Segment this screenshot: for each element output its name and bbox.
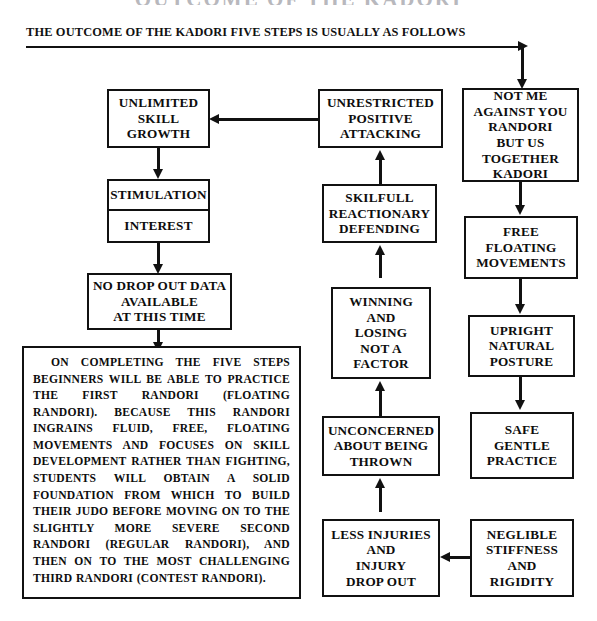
- connector-stiffness-to-injuries: [450, 556, 472, 559]
- box-line: AND: [366, 542, 395, 558]
- box-line: GROWTH: [127, 126, 190, 142]
- title-connector-vertical: [521, 46, 524, 82]
- arrow-into-unconcerned: [375, 478, 385, 488]
- box-summary-paragraph: ON COMPLETING THE FIVE STEPS BEGINNERS W…: [22, 346, 301, 599]
- box-line: REACTIONARY: [329, 206, 430, 222]
- box-less-injuries: LESS INJURIES AND INJURY DROP OUT: [322, 519, 440, 597]
- box-line: NO DROP OUT DATA: [93, 278, 226, 294]
- box-line: AND: [507, 558, 536, 574]
- arrow-into-upright-posture: [515, 304, 525, 314]
- box-skilfull-reactionary-defending: SKILFULL REACTIONARY DEFENDING: [322, 184, 437, 243]
- connector-unconcerned-to-winning: [379, 391, 382, 416]
- box-line: LESS INJURIES: [331, 527, 431, 543]
- box-line: ATTACKING: [340, 126, 421, 142]
- box-line: RANDORI: [488, 119, 552, 135]
- box-line: TOGETHER: [482, 151, 559, 167]
- connector-freefloating-to-upright: [519, 279, 522, 306]
- box-line: BUT US: [496, 135, 544, 151]
- connector-stimulation-to-nodropout: [157, 243, 160, 266]
- arrow-into-winning-losing: [375, 381, 385, 391]
- box-line: DROP OUT: [346, 574, 416, 590]
- box-line: KADORI: [493, 166, 548, 182]
- connector-winning-to-defending: [379, 255, 382, 278]
- box-neglible-stiffness: NEGLIBLE STIFFNESS AND RIGIDITY: [470, 519, 574, 597]
- box-line: NEGLIBLE: [487, 527, 558, 543]
- box-line: SKILL: [138, 111, 179, 127]
- box-line: WINNING: [349, 294, 413, 310]
- connector-upright-to-safe: [519, 377, 522, 402]
- box-line: AND: [366, 310, 395, 326]
- box-unlimited-skill-growth: UNLIMITED SKILL GROWTH: [107, 89, 210, 148]
- page-title: THE OUTCOME OF THE KADORI FIVE STEPS IS …: [26, 25, 466, 40]
- box-unconcerned-about-being-thrown: UNCONCERNED ABOUT BEING THROWN: [322, 416, 440, 476]
- connector-defending-to-attacking: [379, 160, 382, 184]
- box-line: FREE: [503, 224, 539, 240]
- box-no-drop-out-data: NO DROP OUT DATA AVAILABLE AT THIS TIME: [87, 273, 232, 330]
- box-line: INJURY: [356, 558, 407, 574]
- flowchart-page: OUTCOME OF THE KADORI THE OUTCOME OF THE…: [0, 0, 597, 621]
- box-line: FACTOR: [353, 356, 409, 372]
- box-line: NATURAL: [489, 338, 555, 354]
- box-line: POSTURE: [490, 354, 554, 370]
- box-line: PRACTICE: [487, 453, 557, 469]
- box-line: FLOATING: [486, 240, 557, 256]
- box-line: DEFENDING: [339, 221, 420, 237]
- connector-attacking-to-growth: [219, 118, 318, 121]
- connector-notme-to-freefloating: [519, 182, 522, 207]
- box-line: UPRIGHT: [490, 323, 553, 339]
- box-line: SKILFULL: [345, 190, 413, 206]
- box-line: NOT ME: [493, 88, 547, 104]
- cut-off-title-text: OUTCOME OF THE KADORI: [0, 0, 597, 5]
- arrow-into-less-injuries: [440, 552, 450, 562]
- box-line: SAFE: [505, 422, 540, 438]
- box-line: UNRESTRICTED: [327, 95, 434, 111]
- box-line: THROWN: [350, 454, 413, 470]
- box-line: ABOUT BEING: [334, 438, 429, 454]
- connector-growth-to-stimulation: [157, 148, 160, 171]
- box-unrestricted-positive-attacking: UNRESTRICTED POSITIVE ATTACKING: [318, 89, 443, 148]
- box-line: STIMULATION: [110, 187, 206, 203]
- box-safe-gentle-practice: SAFE GENTLE PRACTICE: [470, 412, 574, 479]
- box-free-floating-movements: FREE FLOATING MOVEMENTS: [464, 216, 578, 279]
- box-half-interest: INTEREST: [109, 211, 208, 241]
- connector-lessinjuries-to-unconcerned: [379, 488, 382, 512]
- box-not-me-against-you: NOT ME AGAINST YOU RANDORI BUT US TOGETH…: [462, 88, 579, 182]
- box-line: INTEREST: [124, 218, 192, 234]
- box-line: RIGIDITY: [490, 574, 555, 590]
- box-line: MOVEMENTS: [476, 255, 566, 271]
- box-line: NOT A: [360, 341, 401, 357]
- box-line: LOSING: [355, 325, 408, 341]
- box-line: UNCONCERNED: [328, 423, 434, 439]
- box-winning-losing-not-a-factor: WINNING AND LOSING NOT A FACTOR: [331, 287, 431, 379]
- box-line: AT THIS TIME: [113, 309, 205, 325]
- box-line: UNLIMITED: [119, 95, 198, 111]
- title-underline-connector: [26, 46, 523, 48]
- box-line: AGAINST YOU: [473, 104, 567, 120]
- box-line: STIFFNESS: [486, 542, 558, 558]
- arrow-into-safe-gentle-practice: [515, 400, 525, 410]
- arrow-into-positive-attacking: [375, 150, 385, 160]
- arrow-into-skilfull-defending: [375, 245, 385, 255]
- arrow-into-free-floating: [515, 205, 525, 215]
- box-line: GENTLE: [494, 438, 550, 454]
- box-half-stimulation: STIMULATION: [109, 181, 208, 211]
- summary-text: ON COMPLETING THE FIVE STEPS BEGINNERS W…: [33, 356, 290, 585]
- box-line: POSITIVE: [348, 111, 413, 127]
- box-upright-natural-posture: UPRIGHT NATURAL POSTURE: [468, 315, 575, 377]
- box-stimulation-interest: STIMULATION INTEREST: [107, 179, 210, 243]
- box-line: AVAILABLE: [121, 294, 198, 310]
- arrow-into-unlimited-skill-growth: [209, 114, 219, 124]
- arrow-into-stimulation: [153, 169, 163, 179]
